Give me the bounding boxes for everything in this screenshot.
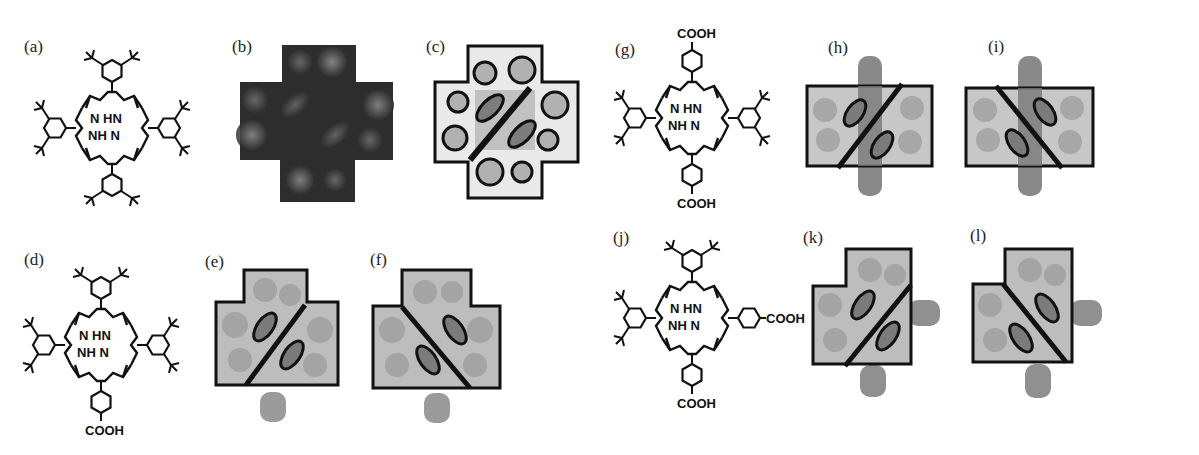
nhn2-text-j: NH N [668,318,700,333]
nhn-text-g: N HN [670,101,702,116]
cooh-top-text-g: COOH [677,26,716,41]
stm-model-c [435,46,578,198]
nhn-text-d: N HN [79,328,111,343]
stm-model-k [813,249,940,397]
nhn2-text-g: NH N [668,118,700,133]
figure-canvas: N HN NH N [0,0,1199,455]
stm-model-e [216,270,338,422]
cooh-right-text-j: COOH [766,311,805,326]
cooh-bottom-text-j: COOH [677,396,716,411]
nhn2-text-d: NH N [77,345,109,360]
molecule-d: N HN NH N COOH [23,267,179,438]
stm-model-h [807,56,932,196]
nhn-text-a: N HN [90,111,122,126]
molecule-a: N HN NH N [34,50,190,206]
stm-image-b [236,45,394,202]
cooh-bottom-text-g: COOH [677,196,716,211]
stm-model-f [373,270,500,423]
molecule-g: N HN NH N COOH COOH [614,26,770,211]
cooh-text-d: COOH [85,423,124,438]
molecule-j: N HN NH N COOH COOH [614,240,805,411]
stm-model-l [973,249,1102,398]
nhn-text-j: N HN [670,301,702,316]
stm-model-i [966,56,1093,196]
nhn2-text-a: NH N [88,128,120,143]
